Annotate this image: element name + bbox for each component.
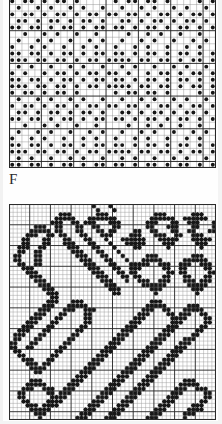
chart-label-f: F [9, 172, 18, 187]
page-edge-left [0, 0, 3, 424]
chart-bottom-star-grid [9, 204, 216, 420]
chart-top-canvas [9, 0, 216, 168]
chart-bottom-canvas [9, 204, 216, 420]
pattern-page: F [0, 0, 222, 424]
chart-top-dot-grid [9, 0, 216, 168]
page-edge-right [218, 0, 222, 424]
